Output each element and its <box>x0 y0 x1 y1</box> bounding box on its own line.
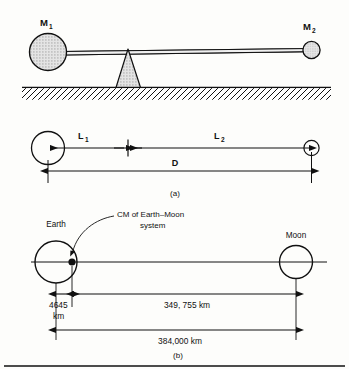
cm-callout-line1: CM of Earth–Moon <box>117 210 184 219</box>
center-of-mass-dot <box>68 258 75 265</box>
dimension-label-l2-subscript: 2 <box>221 136 225 143</box>
earth-label: Earth <box>46 220 66 229</box>
distance-cm-to-moon: 349, 755 km <box>164 300 210 310</box>
dimension-label-l2-text: L <box>214 131 220 141</box>
dimension-label-d: D <box>172 158 179 168</box>
mass-m2-name: M <box>303 21 311 32</box>
caption-panel-b: (b) <box>173 351 183 360</box>
mass-m2 <box>303 41 320 58</box>
mass-m1-subscript: 1 <box>49 23 53 30</box>
distance-earth-to-moon: 384,000 km <box>158 336 202 346</box>
figure-canvas: M 1 M 2 <box>0 0 349 369</box>
cm-callout-line2: system <box>140 221 166 230</box>
dimension-label-l1-text: L <box>78 131 84 141</box>
hatched-ground <box>22 88 331 100</box>
distance-earth-to-cm-line1: 4645 <box>49 300 68 310</box>
dimension-label-l1-subscript: 1 <box>85 136 89 143</box>
mass-m1 <box>30 34 67 71</box>
mass-m1-name: M <box>40 17 48 28</box>
moon-label: Moon <box>286 231 307 240</box>
distance-earth-to-cm-line2: km <box>53 311 64 321</box>
mass-m2-subscript: 2 <box>312 27 316 34</box>
physics-figure: M 1 M 2 <box>0 0 349 369</box>
caption-panel-a: (a) <box>170 189 180 198</box>
